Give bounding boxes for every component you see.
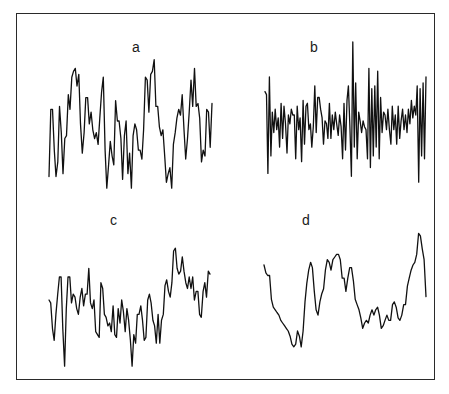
panel-d-trace bbox=[264, 233, 426, 346]
panel-c-label: c bbox=[110, 212, 117, 228]
panel-d: d bbox=[264, 212, 426, 347]
panel-a-label: a bbox=[132, 39, 140, 55]
panel-b-label: b bbox=[310, 39, 318, 55]
figure-canvas: a b c d bbox=[0, 0, 449, 394]
panel-c-trace bbox=[49, 248, 210, 366]
panel-d-label: d bbox=[302, 212, 310, 228]
panel-a: a bbox=[49, 39, 212, 188]
panel-b-trace bbox=[265, 42, 426, 182]
panel-a-trace bbox=[49, 60, 212, 189]
panel-b: b bbox=[265, 39, 426, 182]
panel-c: c bbox=[49, 212, 210, 366]
